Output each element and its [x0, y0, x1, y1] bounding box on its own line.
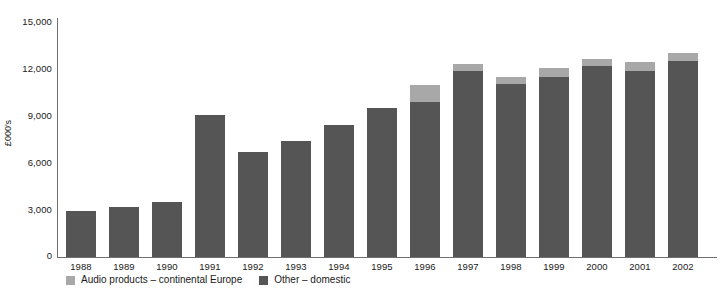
- bar-segment-other-domestic[interactable]: [66, 211, 96, 257]
- bar-segment-other-domestic[interactable]: [453, 71, 483, 257]
- bar-segment-other-domestic[interactable]: [109, 207, 139, 257]
- legend-label: Other – domestic: [274, 274, 350, 286]
- bar-1996[interactable]: [410, 85, 440, 257]
- bar-segment-other-domestic[interactable]: [195, 115, 225, 257]
- bar-2000[interactable]: [582, 59, 612, 257]
- x-axis-line: [57, 257, 717, 258]
- bar-segment-other-domestic[interactable]: [281, 141, 311, 257]
- bars-layer: [57, 0, 717, 257]
- y-axis-tick-label: 15,000: [8, 17, 52, 27]
- bar-segment-audio-products[interactable]: [496, 77, 526, 84]
- bar-1998[interactable]: [496, 77, 526, 257]
- bar-2001[interactable]: [625, 62, 655, 257]
- y-axis-tick-label: 12,000: [8, 64, 52, 74]
- legend-item-audio-products[interactable]: Audio products – continental Europe: [66, 274, 242, 286]
- bar-segment-other-domestic[interactable]: [410, 102, 440, 257]
- bar-segment-audio-products[interactable]: [539, 68, 569, 77]
- y-axis-tick-label: 9,000: [8, 111, 52, 121]
- legend-swatch-icon: [66, 276, 75, 285]
- legend-label: Audio products – continental Europe: [81, 274, 242, 286]
- bar-1989[interactable]: [109, 207, 139, 257]
- bar-1997[interactable]: [453, 64, 483, 257]
- legend-item-other-domestic[interactable]: Other – domestic: [259, 274, 350, 286]
- bar-segment-audio-products[interactable]: [582, 59, 612, 66]
- bar-2002[interactable]: [668, 53, 698, 257]
- bar-segment-other-domestic[interactable]: [367, 108, 397, 257]
- bar-segment-other-domestic[interactable]: [582, 66, 612, 257]
- bar-segment-other-domestic[interactable]: [625, 71, 655, 257]
- bar-segment-other-domestic[interactable]: [152, 202, 182, 257]
- legend-swatch-icon: [259, 276, 268, 285]
- y-axis-tick-label: 3,000: [8, 205, 52, 215]
- chart-container: £000's 3,0006,0009,00012,00015,000 Audio…: [0, 0, 725, 293]
- bar-segment-other-domestic[interactable]: [668, 61, 698, 257]
- bar-1992[interactable]: [238, 152, 268, 257]
- bar-1994[interactable]: [324, 125, 354, 257]
- chart-legend: Audio products – continental EuropeOther…: [66, 274, 360, 286]
- bar-segment-other-domestic[interactable]: [496, 84, 526, 257]
- bar-segment-audio-products[interactable]: [410, 85, 440, 101]
- y-axis-tick-label: 6,000: [8, 158, 52, 168]
- bar-segment-other-domestic[interactable]: [238, 152, 268, 257]
- bar-segment-other-domestic[interactable]: [539, 77, 569, 257]
- bar-segment-audio-products[interactable]: [625, 62, 655, 71]
- bar-segment-other-domestic[interactable]: [324, 125, 354, 257]
- y-axis-tick-label-zero: 0: [38, 250, 52, 261]
- bar-1995[interactable]: [367, 108, 397, 257]
- bar-1993[interactable]: [281, 141, 311, 257]
- bar-segment-audio-products[interactable]: [668, 53, 698, 61]
- bar-1988[interactable]: [66, 211, 96, 257]
- bar-1990[interactable]: [152, 202, 182, 257]
- bar-1999[interactable]: [539, 68, 569, 257]
- x-axis-tick-label-2002: 2002: [656, 261, 710, 272]
- bar-1991[interactable]: [195, 115, 225, 257]
